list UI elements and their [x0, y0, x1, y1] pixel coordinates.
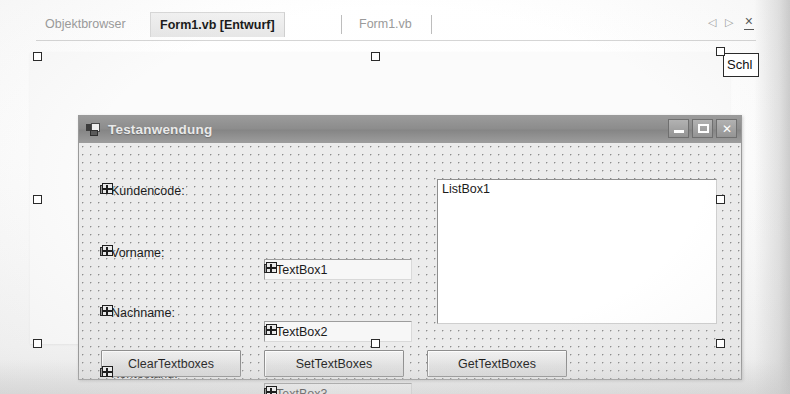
form-title-bar[interactable]: Testanwendung ✕	[79, 116, 741, 143]
tab-prev-icon[interactable]: ◁	[708, 17, 716, 28]
move-handle-icon[interactable]	[264, 324, 277, 337]
close-icon[interactable]: ×	[744, 14, 754, 30]
textbox-2[interactable]: TextBox2	[264, 321, 412, 342]
document-tab-strip: Objektbrowser Form1.vb [Entwurf] Form1.v…	[36, 12, 754, 40]
design-form-window[interactable]: Testanwendung ✕	[78, 115, 742, 380]
selection-handle-bottom-right[interactable]	[716, 339, 725, 348]
scanned-page: Objektbrowser Form1.vb [Entwurf] Form1.v…	[0, 0, 790, 394]
maximize-button[interactable]	[692, 119, 713, 138]
form-title-text: Testanwendung	[108, 122, 212, 137]
minimize-icon	[674, 130, 684, 133]
tab-form1-vb-entwurf[interactable]: Form1.vb [Entwurf]	[150, 12, 285, 37]
page-edge-shadow-right	[754, 0, 790, 394]
tab-form1-vb[interactable]: Form1.vb	[350, 12, 421, 36]
form-designer-surface[interactable]: Testanwendung ✕	[30, 52, 730, 344]
close-button[interactable]: ✕	[716, 119, 737, 138]
tab-next-icon[interactable]: ▷	[725, 17, 733, 28]
selection-handle-top-right[interactable]	[716, 47, 725, 56]
tab-separator	[341, 15, 342, 34]
maximize-icon	[698, 124, 709, 133]
selection-handle-bottom-left[interactable]	[33, 339, 42, 348]
move-handle-icon[interactable]	[100, 366, 113, 379]
label-nachname[interactable]: Nachname:	[101, 303, 236, 323]
set-textboxes-button[interactable]: SetTextBoxes	[264, 350, 404, 377]
textbox-1[interactable]: TextBox1	[264, 259, 412, 280]
selection-handle-bottom-middle[interactable]	[371, 339, 380, 348]
tab-strip-nav: ◁ ▷ ×	[708, 14, 754, 30]
selection-handle-middle-right[interactable]	[716, 195, 725, 204]
textbox-3[interactable]: TextBox3	[264, 383, 412, 394]
label-text: Kundencode:	[102, 184, 185, 198]
listbox-1[interactable]: ListBox1	[437, 179, 717, 324]
move-handle-icon[interactable]	[100, 245, 113, 258]
selection-handle-top-middle[interactable]	[371, 52, 380, 61]
tab-objektbrowser[interactable]: Objektbrowser	[36, 12, 135, 36]
listbox-item: ListBox1	[442, 182, 490, 196]
minimize-button[interactable]	[668, 119, 689, 138]
move-handle-icon[interactable]	[264, 262, 277, 275]
selection-handle-middle-left[interactable]	[33, 195, 42, 204]
selection-handle-top-left[interactable]	[33, 52, 42, 61]
application-icon	[86, 123, 101, 137]
clear-textboxes-button[interactable]: ClearTextboxes	[101, 350, 241, 377]
get-textboxes-button[interactable]: GetTextBoxes	[427, 350, 567, 377]
close-icon: ✕	[722, 123, 732, 135]
label-kundencode[interactable]: Kundencode:	[101, 181, 236, 201]
form-client-area[interactable]: Kundencode: Vorname: Nachname:	[79, 143, 741, 379]
tooltip-fragment: Schl	[723, 53, 759, 77]
tab-separator	[431, 15, 432, 34]
move-handle-icon[interactable]	[264, 386, 277, 394]
tab-strip-divider	[36, 40, 756, 41]
window-controls: ✕	[668, 119, 737, 138]
label-vorname[interactable]: Vorname:	[101, 243, 236, 263]
move-handle-icon[interactable]	[100, 183, 113, 196]
move-handle-icon[interactable]	[100, 305, 113, 318]
